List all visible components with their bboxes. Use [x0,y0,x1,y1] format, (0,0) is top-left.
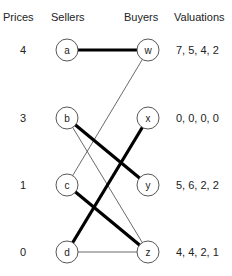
svg-text:w: w [143,45,152,56]
seller-node-a: a [56,39,78,61]
svg-text:y: y [146,180,151,191]
seller-node-c: c [56,174,78,196]
bipartite-graph: a b c d w x y z [0,0,232,276]
edge-b-y [67,118,148,185]
svg-text:x: x [146,113,151,124]
svg-text:c: c [65,180,70,191]
buyer-node-y: y [137,174,159,196]
buyer-node-x: x [137,107,159,129]
seller-node-d: d [56,241,78,263]
buyer-node-z: z [137,241,159,263]
svg-text:b: b [64,113,70,124]
seller-node-b: b [56,107,78,129]
svg-text:z: z [146,247,151,258]
buyer-node-w: w [137,39,159,61]
edge-c-w [67,50,148,185]
svg-text:d: d [64,247,70,258]
svg-text:a: a [64,45,70,56]
edge-c-z [67,185,148,252]
